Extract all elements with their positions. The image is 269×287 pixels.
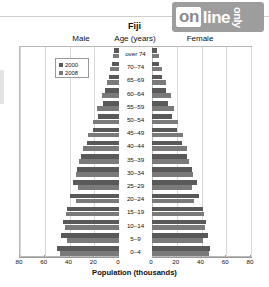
age-group-label: 5–9	[119, 232, 152, 245]
female-column-header: Female	[176, 34, 224, 43]
bar-female-2008	[152, 251, 209, 256]
x-tick-label: 60	[40, 258, 47, 265]
bar-female-2008	[152, 120, 178, 125]
age-group-label: 60–64	[119, 87, 152, 100]
bar-female-2000	[152, 128, 177, 133]
bar-male-2000	[105, 88, 119, 93]
bar-male-2000	[57, 246, 119, 251]
age-group-label: 40–44	[119, 139, 152, 152]
age-group-label: 10–14	[119, 218, 152, 231]
bar-female-2000	[152, 88, 166, 93]
bar-female-2008	[152, 133, 183, 138]
bar-female-2008	[152, 146, 187, 151]
x-tick-label: 0	[149, 258, 152, 265]
bar-male-2008	[97, 106, 119, 111]
bar-female-2008	[152, 93, 171, 98]
age-group-label: 50–54	[119, 113, 152, 126]
population-pyramid-figure: on line only Fiji Male Age (years) Femal…	[0, 0, 269, 287]
bar-female-2000	[152, 180, 197, 185]
pyramid-row: 10–14	[20, 218, 253, 231]
x-tick-label: 80	[247, 258, 254, 265]
bar-female-2000	[152, 194, 199, 199]
bar-male-2000	[81, 154, 119, 159]
pyramid-row: 25–29	[20, 179, 253, 192]
bar-male-2000	[93, 128, 119, 133]
x-tick-label: 20	[172, 258, 179, 265]
bar-female-2000	[152, 101, 168, 106]
bar-female-2000	[152, 154, 187, 159]
legend-item-2000: 2000	[59, 61, 86, 69]
online-only-watermark: on line only	[172, 2, 264, 32]
bar-female-2000	[152, 167, 192, 172]
watermark-line-text: line	[201, 9, 230, 26]
bar-female-2008	[152, 67, 162, 72]
age-group-label: 30–34	[119, 166, 152, 179]
bar-male-2008	[88, 133, 119, 138]
bar-male-2008	[66, 212, 119, 217]
bar-male-2008	[67, 238, 119, 243]
bar-female-2008	[152, 225, 205, 230]
bar-male-2000	[109, 75, 119, 80]
bar-male-2000	[98, 114, 119, 119]
bar-female-2008	[152, 185, 192, 190]
bar-female-2000	[152, 220, 206, 225]
pyramid-row: 35–39	[20, 153, 253, 166]
bar-female-2000	[152, 48, 157, 53]
pyramid-row: 30–34	[20, 166, 253, 179]
pyramid-row: 15–19	[20, 205, 253, 218]
pyramid-row: 0–4	[20, 245, 253, 258]
bar-female-2008	[152, 199, 194, 204]
legend-swatch-2008-icon	[59, 71, 63, 75]
age-group-label: 15–19	[119, 205, 152, 218]
x-axis-label: Population (thousands)	[0, 268, 269, 277]
age-group-label: over 74	[119, 47, 152, 60]
bar-female-2008	[152, 238, 203, 243]
legend-label-2008: 2008	[65, 70, 78, 76]
bar-male-2008	[60, 251, 119, 256]
bar-male-2008	[102, 93, 119, 98]
pyramid-row: 20–24	[20, 192, 253, 205]
bar-male-2008	[93, 120, 119, 125]
bar-male-2008	[65, 225, 119, 230]
bar-male-2000	[70, 194, 120, 199]
age-group-label: 25–29	[119, 179, 152, 192]
watermark-only-text: only	[232, 7, 243, 28]
legend-item-2008: 2008	[59, 69, 86, 77]
age-group-label: 65–69	[119, 73, 152, 86]
bar-male-2008	[110, 67, 119, 72]
age-column-header: Age (years)	[107, 34, 163, 43]
age-group-label: 0–4	[119, 245, 152, 258]
bar-female-2008	[152, 54, 159, 59]
x-axis-ticks: 806040200020406080	[19, 258, 252, 268]
x-tick-label: 80	[16, 258, 23, 265]
chart-legend: 2000 2008	[55, 58, 89, 78]
bar-male-2000	[103, 101, 119, 106]
pyramid-row: 50–54	[20, 113, 253, 126]
bar-male-2008	[78, 185, 119, 190]
age-group-label: 20–24	[119, 192, 152, 205]
pyramid-row: 60–64	[20, 87, 253, 100]
age-group-label: 70–74	[119, 60, 152, 73]
watermark-on-text: on	[176, 7, 201, 27]
bar-female-2000	[152, 207, 203, 212]
bar-female-2008	[152, 106, 174, 111]
bar-male-2000	[112, 62, 119, 67]
legend-swatch-2000-icon	[59, 63, 63, 67]
bar-female-2008	[152, 80, 166, 85]
bar-female-2000	[152, 114, 172, 119]
bar-male-2008	[107, 80, 119, 85]
bar-female-2000	[152, 233, 208, 238]
pyramid-row: 55–59	[20, 100, 253, 113]
legend-label-2000: 2000	[65, 62, 78, 68]
bar-female-2008	[152, 212, 204, 217]
bar-male-2008	[83, 146, 119, 151]
x-tick-label: 0	[116, 258, 119, 265]
plot-area: over 7470–7465–6960–6455–5950–5445–4940–…	[19, 46, 252, 257]
left-edge-artifact	[0, 70, 4, 104]
bar-male-2008	[79, 159, 119, 164]
male-column-header: Male	[58, 34, 104, 43]
bar-male-2000	[87, 141, 119, 146]
age-group-label: 45–49	[119, 126, 152, 139]
pyramid-row: 45–49	[20, 126, 253, 139]
age-group-label: 35–39	[119, 153, 152, 166]
